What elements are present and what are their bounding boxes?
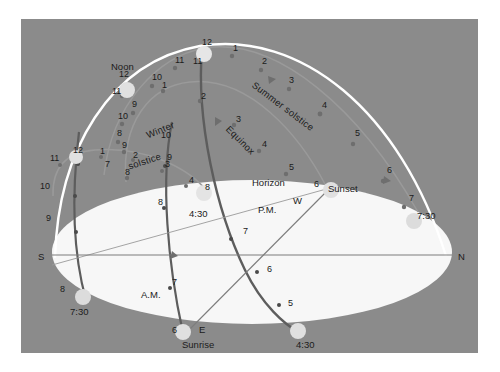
hour-label-equinox-6: 6 (314, 180, 319, 189)
hour-label-am-track-1: 9 (167, 153, 172, 162)
horizon-plane (52, 180, 452, 324)
hour-label-am-track-4: 6 (172, 326, 177, 335)
hour-label-summer-2: 2 (262, 57, 267, 66)
time-summer-sunrise: 7:30 (70, 307, 89, 317)
hour-label-pm-track-1: 8 (205, 183, 210, 192)
hour-label-summer-0: 12 (202, 38, 212, 47)
hour-label-am-track-3: 7 (172, 278, 177, 287)
hour-label-summer-11: 8 (117, 129, 122, 138)
hour-label-summer-12: 7 (105, 160, 110, 169)
hour-label-equinox-5: 5 (289, 163, 294, 172)
label-am: A.M. (141, 290, 161, 300)
hour-label-pm-track-2: 7 (243, 227, 248, 236)
hour-label-summer-3: 3 (289, 76, 294, 85)
hour-label-pm-track-3: 6 (267, 265, 272, 274)
hour-label-winter-6: 10 (40, 182, 50, 191)
hour-label-winter-2: 2 (133, 151, 138, 160)
hour-label-winter-5: 11 (50, 154, 59, 163)
cardinal-south: S (38, 252, 44, 262)
hour-label-equinox-0: 12 (119, 70, 129, 79)
hour-label-winter-4: 4 (189, 176, 194, 185)
hour-label-summer-5: 5 (355, 129, 360, 138)
dot-winter-sunset-east (290, 323, 306, 339)
hour-label-summer-4: 4 (322, 101, 327, 110)
hour-label-summer-9: 10 (152, 73, 162, 82)
hour-label-equinox-10: 8 (125, 168, 130, 177)
hour-label-equinox-1: 1 (162, 81, 167, 90)
hour-label-winter-1: 1 (100, 147, 105, 156)
cardinal-north: N (458, 252, 465, 262)
hour-label-am-track-2: 8 (158, 198, 163, 207)
hour-label-summer-1: 1 (233, 44, 238, 53)
dot-sunrise (175, 324, 191, 340)
label-sunset: Sunset (328, 184, 358, 194)
hour-label-pm-track-4: 5 (288, 299, 293, 308)
label-pm: P.M. (258, 205, 276, 215)
label-horizon: Horizon (252, 178, 285, 188)
hour-label-equinox-8: 10 (118, 112, 128, 121)
hour-label-am-track-0: 10 (161, 131, 171, 140)
hour-label-winter-8: 8 (60, 285, 65, 294)
hour-label-summer-6: 6 (387, 166, 392, 175)
figure-canvas: S N E W Summer solstice Equinox Winter s… (0, 0, 500, 372)
dot-summer-sunrise-early (75, 289, 91, 305)
hour-label-equinox-9: 9 (122, 141, 127, 150)
dot-zenith-noon (119, 82, 135, 98)
time-winter-sunset-west: 4:30 (189, 209, 208, 219)
hour-label-equinox-3: 3 (236, 115, 241, 124)
hour-label-equinox-7: 11 (112, 87, 121, 96)
cardinal-east: E (199, 325, 205, 335)
label-sunrise: Sunrise (182, 340, 214, 350)
hour-label-summer-10: 9 (132, 100, 137, 109)
hour-label-winter-7: 9 (46, 214, 51, 223)
hour-label-summer-8: 11 (175, 56, 184, 65)
cardinal-west: W (293, 196, 302, 206)
hour-label-pm-track-0: 11 (193, 57, 202, 66)
hour-label-summer-7: 7 (409, 194, 414, 203)
hour-label-equinox-2: 2 (201, 92, 206, 101)
hour-label-equinox-4: 4 (262, 140, 267, 149)
time-winter-sunset-east: 4:30 (296, 340, 315, 350)
time-summer-sunset: 7:30 (417, 211, 436, 221)
hour-label-winter-0: 12 (73, 146, 83, 155)
